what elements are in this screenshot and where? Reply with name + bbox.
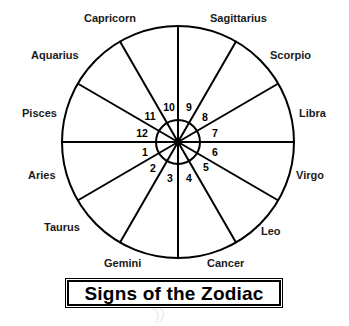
watermark-squiggle [148, 306, 170, 324]
zodiac-diagram-page: Capricorn Sagittarius Aquarius Scorpio P… [0, 0, 349, 326]
sign-label-pisces: Pisces [22, 108, 57, 119]
sign-label-scorpio: Scorpio [270, 50, 311, 61]
sign-label-leo: Leo [261, 226, 281, 237]
title-box: Signs of the Zodiac [65, 278, 283, 308]
house-number-2: 2 [150, 163, 156, 174]
figure-title: Signs of the Zodiac [84, 284, 263, 303]
house-number-3: 3 [167, 173, 173, 184]
house-number-10: 10 [163, 102, 175, 113]
house-number-4: 4 [186, 173, 192, 184]
house-number-9: 9 [186, 102, 192, 113]
house-number-7: 7 [212, 128, 218, 139]
sign-label-capricorn: Capricorn [84, 13, 136, 24]
house-number-5: 5 [203, 162, 209, 173]
sign-label-gemini: Gemini [104, 258, 141, 269]
house-number-1: 1 [142, 147, 148, 158]
house-number-6: 6 [212, 147, 218, 158]
sign-label-aquarius: Aquarius [31, 50, 79, 61]
sign-label-cancer: Cancer [207, 258, 244, 269]
sign-label-aries: Aries [28, 170, 56, 181]
sign-label-taurus: Taurus [44, 222, 80, 233]
title-box-inner-border: Signs of the Zodiac [67, 280, 281, 306]
sign-label-libra: Libra [299, 108, 326, 119]
house-number-8: 8 [202, 112, 208, 123]
center-hub-dot [175, 139, 182, 146]
house-number-11: 11 [144, 111, 155, 122]
house-number-12: 12 [136, 128, 148, 139]
sign-label-virgo: Virgo [296, 170, 324, 181]
sign-label-sagittarius: Sagittarius [210, 13, 267, 24]
